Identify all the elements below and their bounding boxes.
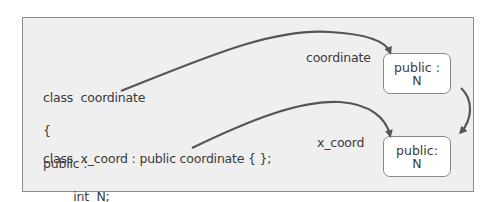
arrow-x-coord-to-object bbox=[192, 102, 390, 148]
arrow-coordinate-to-object bbox=[121, 32, 390, 91]
arrow-inheritance bbox=[461, 88, 470, 132]
arrows-layer bbox=[0, 0, 497, 202]
